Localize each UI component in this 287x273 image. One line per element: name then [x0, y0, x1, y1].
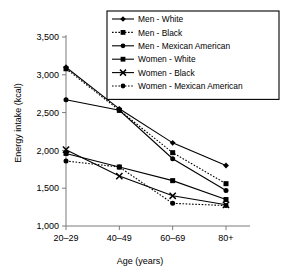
y-tick-label: 1,000	[36, 221, 59, 231]
legend-item-label: Women - Mexican American	[138, 81, 243, 91]
energy-intake-line-chart: Energy intake (kcal) Age (years) 1,0001,…	[0, 0, 287, 273]
data-point-marker	[170, 150, 175, 155]
data-point-marker	[64, 66, 69, 71]
series-line	[66, 100, 226, 191]
y-axis-tick-labels: 1,0001,5002,0002,5003,0003,500	[36, 32, 66, 231]
legend-item-label: Men - Black	[138, 28, 183, 38]
data-point-marker	[224, 181, 229, 186]
data-point-marker	[121, 30, 126, 35]
x-tick-label: 60–69	[160, 233, 185, 243]
data-point-marker	[117, 165, 122, 170]
legend-item-label: Women - Black	[138, 68, 195, 78]
data-point-marker	[170, 140, 176, 146]
data-point-marker	[64, 158, 69, 163]
y-tick-label: 2,500	[36, 108, 59, 118]
y-tick-label: 2,000	[36, 146, 59, 156]
data-point-marker	[224, 197, 229, 202]
data-point-marker	[121, 84, 126, 89]
x-tick-label: 80+	[218, 233, 233, 243]
y-tick-label: 3,500	[36, 32, 59, 42]
data-point-marker	[223, 163, 229, 169]
series-line	[66, 150, 226, 205]
data-point-marker	[121, 43, 126, 48]
x-tick-label: 20–29	[53, 233, 78, 243]
data-point-marker	[170, 178, 175, 183]
data-point-marker	[170, 156, 175, 161]
data-point-marker	[224, 203, 229, 208]
data-point-marker	[64, 97, 69, 102]
x-tick-label: 40–49	[107, 233, 132, 243]
x-axis-tick-labels: 20–2940–4960–6980+	[53, 226, 233, 243]
legend-item-label: Men - White	[138, 14, 183, 24]
plot-area: 1,0001,5002,0002,5003,0003,500 20–2940–4…	[0, 0, 287, 273]
y-tick-label: 1,500	[36, 183, 59, 193]
y-tick-label: 3,000	[36, 70, 59, 80]
data-point-marker	[121, 57, 126, 62]
series-line	[66, 161, 226, 206]
legend-item-label: Men - Mexican American	[138, 41, 230, 51]
data-point-marker	[117, 108, 122, 113]
legend: Men - WhiteMen - BlackMen - Mexican Amer…	[107, 11, 279, 99]
data-point-marker	[224, 188, 229, 193]
data-point-marker	[170, 201, 175, 206]
legend-item-label: Women - White	[138, 54, 196, 64]
data-point-marker	[116, 173, 122, 179]
